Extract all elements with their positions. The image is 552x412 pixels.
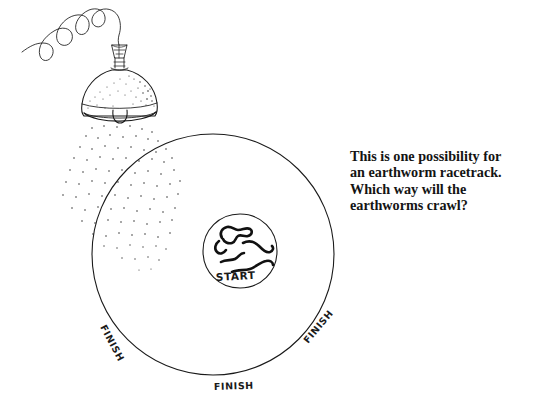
- earthworm-racetrack-illustration: START FINISH FINISH FINISH This is one p…: [0, 0, 552, 412]
- lamp-finial: [112, 45, 127, 58]
- caption-line: This is one possibility for: [350, 148, 540, 164]
- racetrack: START FINISH FINISH FINISH: [92, 134, 335, 392]
- caption-line: earthworms crawl?: [350, 197, 540, 213]
- lamp-cord-icon: [22, 9, 120, 61]
- hanging-lamp: [22, 9, 181, 271]
- worm: [215, 241, 226, 253]
- light-rays-stipple: [62, 125, 181, 270]
- caption-line: an earthworm racetrack.: [350, 164, 540, 180]
- lamp-shade: [82, 70, 158, 123]
- caption-text: This is one possibility for an earthworm…: [350, 148, 540, 214]
- worm: [221, 253, 244, 262]
- lamp-neck: [111, 58, 128, 70]
- shade-stipple: [88, 75, 155, 108]
- outer-track-circle: [92, 134, 334, 375]
- start-label: START: [215, 269, 256, 283]
- finish-label-left: FINISH: [98, 323, 126, 363]
- caption-line: Which way will the: [350, 181, 540, 197]
- finish-label-bottom: FINISH: [214, 380, 254, 392]
- worm: [243, 242, 273, 253]
- earthworms: [215, 227, 273, 272]
